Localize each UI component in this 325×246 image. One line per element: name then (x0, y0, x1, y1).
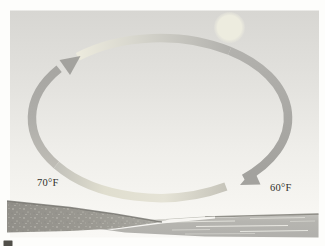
sky (10, 11, 319, 238)
land-temperature-label: 70°F (37, 177, 59, 188)
cropped-caption-fragment (4, 241, 13, 246)
sea-temperature-label: 60°F (270, 182, 292, 193)
figure-container: 70°F 60°F (0, 0, 325, 246)
sea-breeze-diagram (0, 0, 325, 246)
sun-icon (214, 12, 245, 43)
